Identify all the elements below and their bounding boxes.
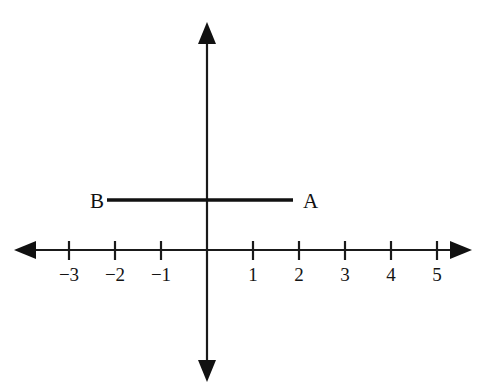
tick-label-neg1: −1 (151, 264, 171, 285)
tick-label-5: 5 (432, 264, 442, 285)
tick-label-3: 3 (340, 264, 350, 285)
figure-canvas: −3 −2 −1 1 2 3 4 5 B A (0, 0, 491, 389)
x-axis-tick-labels: −3 −2 −1 1 2 3 4 5 (59, 264, 442, 285)
point-label-a: A (303, 189, 319, 213)
number-line-plot: −3 −2 −1 1 2 3 4 5 B A (0, 0, 491, 389)
x-axis-right-arrow-icon (450, 241, 472, 259)
y-axis-bottom-arrow-icon (198, 360, 216, 382)
point-label-b: B (90, 189, 104, 213)
tick-label-neg3: −3 (59, 264, 79, 285)
tick-label-2: 2 (294, 264, 304, 285)
x-axis-left-arrow-icon (14, 241, 36, 259)
tick-label-4: 4 (386, 264, 396, 285)
segment-ab-group: B A (90, 189, 319, 213)
y-axis-top-arrow-icon (198, 22, 216, 44)
y-axis-group (198, 22, 216, 382)
tick-label-1: 1 (248, 264, 258, 285)
x-axis-group (14, 241, 472, 259)
tick-label-neg2: −2 (105, 264, 125, 285)
